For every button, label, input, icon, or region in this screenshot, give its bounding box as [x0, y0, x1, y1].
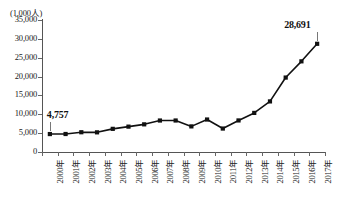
line-chart: (1,000人) 35,00030,00025,00020,00015,0001… — [0, 0, 337, 203]
data-point-marker — [95, 130, 99, 134]
data-point-marker — [221, 126, 225, 130]
data-point-marker — [158, 118, 162, 122]
last-value-label: 28,691 — [284, 19, 310, 30]
data-point-marker — [284, 75, 288, 79]
series-layer — [0, 0, 337, 203]
data-point-marker — [111, 127, 115, 131]
data-point-marker — [252, 111, 256, 115]
series-line — [50, 44, 317, 134]
data-point-marker — [236, 118, 240, 122]
data-point-marker — [205, 117, 209, 121]
first-value-label-leader-line — [50, 122, 51, 131]
data-point-marker — [299, 59, 303, 63]
data-point-marker — [189, 124, 193, 128]
data-point-marker — [79, 130, 83, 134]
data-point-marker — [142, 122, 146, 126]
last-value-label-leader-line — [317, 32, 318, 41]
data-point-marker — [174, 118, 178, 122]
data-point-marker — [315, 42, 319, 46]
first-value-label: 4,757 — [47, 109, 69, 120]
data-point-marker — [268, 99, 272, 103]
data-point-marker — [126, 125, 130, 129]
data-point-marker — [48, 132, 52, 136]
data-point-marker — [63, 132, 67, 136]
